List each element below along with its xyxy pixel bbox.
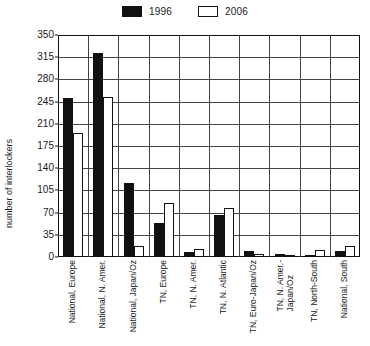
x-axis-tick-label: National, Japan/Oz <box>129 260 139 332</box>
y-axis-tick-label: 315 <box>26 52 54 62</box>
bar-group <box>209 35 239 257</box>
x-axis-tick-label: TN, N. Amer. <box>189 260 199 309</box>
y-axis-tick-label: 175 <box>26 141 54 151</box>
x-axis-label-cell: National, South <box>330 259 360 346</box>
bar-2006 <box>345 246 355 257</box>
bar-group <box>179 35 209 257</box>
x-axis-tick-label: National, N. Amer. <box>99 260 109 329</box>
y-axis-tick-label: 280 <box>26 74 54 84</box>
x-axis-label-cell: TN, N. Amer. <box>179 259 209 346</box>
bar-group <box>118 35 148 257</box>
bar-1996 <box>154 223 164 257</box>
bar-1996 <box>124 183 134 257</box>
bar-2006 <box>134 246 144 257</box>
bar-1996 <box>184 252 194 257</box>
bar-1996 <box>244 251 254 257</box>
bar-1996 <box>335 251 345 257</box>
legend-label-2006: 2006 <box>225 6 248 17</box>
legend-label-1996: 1996 <box>149 6 172 17</box>
bar-2006 <box>315 250 325 257</box>
chart-legend: 1996 2006 <box>0 6 370 17</box>
x-axis-label-cell: National, Japan/Oz <box>118 259 148 346</box>
bar-chart: 1996 2006 number of interlockers 0357010… <box>0 0 370 346</box>
legend-item-1996: 1996 <box>122 6 172 17</box>
bar-2006 <box>285 255 295 257</box>
bar-group <box>239 35 269 257</box>
x-axis-label-cell: National, N. Amer. <box>88 259 118 346</box>
bar-group <box>149 35 179 257</box>
y-axis-title: number of interlockers <box>2 108 16 258</box>
legend-swatch-2006 <box>198 6 218 17</box>
bar-group <box>58 35 88 257</box>
x-axis-label-cell: TN, North-South <box>300 259 330 346</box>
bar-1996 <box>93 53 103 257</box>
bar-group <box>300 35 330 257</box>
y-axis-tick-label: 140 <box>26 163 54 173</box>
x-axis-label-cell: National, Europe <box>58 259 88 346</box>
bar-groups <box>58 35 360 257</box>
bar-2006 <box>73 133 83 257</box>
x-axis-tick-label: TN, North-South <box>310 260 320 322</box>
x-axis-tick-label: TN, Europe <box>159 260 169 303</box>
bar-2006 <box>194 249 204 257</box>
bar-group <box>330 35 360 257</box>
y-axis-tick-label: 0 <box>26 252 54 262</box>
y-axis-tick-label: 350 <box>26 30 54 40</box>
x-axis-tick-label: National, Europe <box>68 260 78 323</box>
bar-2006 <box>164 203 174 257</box>
x-axis-tick-label: National, South <box>340 260 350 318</box>
y-axis-tick-label: 210 <box>26 119 54 129</box>
bar-1996 <box>214 215 224 257</box>
x-axis-tick-label: TN, N. Amer.- Japan/Oz <box>275 260 294 311</box>
x-axis-label-cell: TN, Europe <box>149 259 179 346</box>
bar-2006 <box>254 254 264 257</box>
x-axis-label-cell: TN, N. Amer.- Japan/Oz <box>269 259 299 346</box>
bar-1996 <box>63 98 73 257</box>
x-axis-label-cell: TN, Euro-Japan/Oz <box>239 259 269 346</box>
x-axis-tick-label: TN, N. Atlantic <box>219 260 229 314</box>
y-axis-tick-label: 35 <box>26 230 54 240</box>
legend-swatch-1996 <box>122 6 142 17</box>
bar-2006 <box>224 208 234 257</box>
x-axis-label-cell: TN, N. Atlantic <box>209 259 239 346</box>
bar-1996 <box>305 255 315 257</box>
x-axis-labels: National, EuropeNational, N. Amer.Nation… <box>58 259 360 346</box>
x-axis-tick-label: TN, Euro-Japan/Oz <box>250 260 260 333</box>
bar-1996 <box>275 254 285 257</box>
bar-group <box>88 35 118 257</box>
plot-area: 03570105140175210245280315350 <box>58 35 360 257</box>
bar-group <box>269 35 299 257</box>
y-axis-tick-label: 70 <box>26 208 54 218</box>
y-axis-tick-label: 245 <box>26 97 54 107</box>
bar-2006 <box>103 97 113 257</box>
y-axis-tick-label: 105 <box>26 185 54 195</box>
legend-item-2006: 2006 <box>198 6 248 17</box>
